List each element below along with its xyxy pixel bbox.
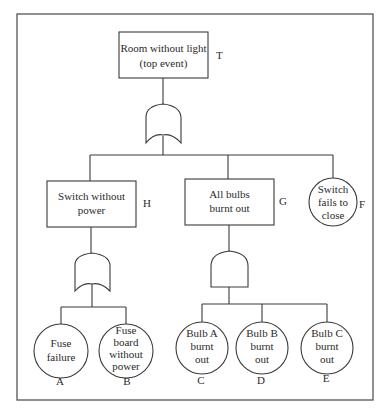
event-F-line-2: fails to bbox=[318, 196, 349, 208]
event-F-line-3: close bbox=[322, 209, 345, 221]
basic-event-E: Bulb C burnt out E bbox=[301, 322, 353, 384]
event-B-line-1: Fuse bbox=[116, 324, 137, 336]
basic-event-F: Switch fails to close F bbox=[309, 178, 365, 226]
intermediate-event-G: All bulbs burnt out G bbox=[185, 179, 287, 225]
event-H-id: H bbox=[143, 197, 151, 209]
event-A-id: A bbox=[56, 375, 64, 387]
event-B-line-2: board bbox=[113, 336, 139, 348]
top-event-id: T bbox=[216, 49, 223, 61]
event-D-id: D bbox=[257, 374, 265, 386]
event-G-line-1: All bulbs bbox=[209, 188, 250, 200]
event-D-line-2: burnt bbox=[250, 340, 273, 352]
event-H-line-1: Switch without bbox=[58, 190, 125, 202]
event-D-line-1: Bulb B bbox=[246, 327, 277, 339]
top-event-line-1: Room without light bbox=[120, 42, 206, 54]
basic-event-A: Fuse failure A bbox=[34, 324, 88, 387]
event-C-line-1: Bulb A bbox=[186, 327, 218, 339]
event-F-id: F bbox=[359, 198, 365, 210]
event-H-line-2: power bbox=[78, 204, 106, 216]
event-E-line-1: Bulb C bbox=[311, 327, 342, 339]
top-event-line-2: (top event) bbox=[140, 57, 188, 70]
basic-event-C: Bulb A burnt out C bbox=[176, 322, 228, 386]
event-A-line-2: failure bbox=[47, 351, 76, 363]
event-E-line-3: out bbox=[320, 353, 334, 365]
fault-tree-diagram: Room without light (top event) T Switch … bbox=[0, 0, 384, 413]
basic-event-B: Fuse board without power B bbox=[99, 324, 153, 387]
event-C-line-2: burnt bbox=[190, 340, 213, 352]
basic-event-D: Bulb B burnt out D bbox=[236, 322, 288, 386]
event-A-line-1: Fuse bbox=[51, 337, 72, 349]
event-D-line-3: out bbox=[255, 353, 269, 365]
event-B-id: B bbox=[123, 375, 130, 387]
event-B-line-4: power bbox=[112, 360, 140, 372]
top-event-T: Room without light (top event) T bbox=[119, 32, 223, 78]
event-E-line-2: burnt bbox=[315, 340, 338, 352]
event-E-id: E bbox=[323, 372, 330, 384]
event-C-line-3: out bbox=[195, 353, 209, 365]
event-F-line-1: Switch bbox=[318, 183, 349, 195]
and-gate-icon bbox=[211, 251, 248, 287]
event-G-id: G bbox=[279, 195, 287, 207]
event-C-id: C bbox=[197, 374, 204, 386]
event-G-line-2: burnt out bbox=[209, 202, 249, 214]
event-B-line-3: without bbox=[109, 348, 143, 360]
intermediate-event-H: Switch without power H bbox=[47, 181, 151, 227]
